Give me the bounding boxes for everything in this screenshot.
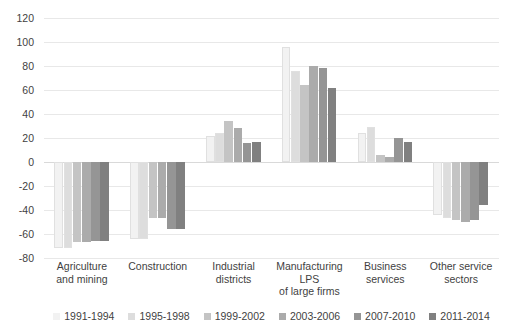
bar: [385, 157, 394, 162]
legend-item[interactable]: 1999-2002: [204, 311, 265, 322]
y-axis-tick-label: 40: [22, 109, 34, 120]
category-label-line: sectors: [423, 273, 499, 286]
bar: [158, 162, 167, 218]
bar: [328, 88, 337, 162]
bar-group: [44, 18, 120, 258]
category-label-line: and mining: [44, 273, 120, 286]
category-label-line: Business: [347, 260, 423, 273]
bar-group: [423, 18, 499, 258]
category-label: ManufacturingLPSof large firms: [272, 260, 348, 298]
legend-label: 1999-2002: [215, 311, 265, 322]
legend-swatch-icon: [279, 313, 286, 320]
category-label: Other servicesectors: [423, 260, 499, 285]
y-axis-tick-label: 0: [28, 157, 34, 168]
bar: [309, 66, 318, 162]
category-label-line: Construction: [120, 260, 196, 273]
category-label-line: Manufacturing: [272, 260, 348, 273]
bar: [479, 162, 488, 205]
bar: [394, 138, 403, 162]
bar: [243, 143, 252, 162]
bar-groups: [44, 18, 499, 258]
bar-chart: 120100806040200-20-40-60-80 Agriculturea…: [0, 0, 509, 330]
bar: [149, 162, 158, 218]
legend-label: 2011-2014: [440, 311, 489, 322]
legend-item[interactable]: 2007-2010: [354, 311, 415, 322]
bar: [100, 162, 109, 241]
legend-label: 1991-1994: [64, 311, 114, 322]
bar: [291, 71, 300, 162]
category-axis-labels: Agricultureand miningConstructionIndustr…: [44, 260, 499, 304]
legend-swatch-icon: [128, 313, 135, 320]
category-label-line: Agriculture: [44, 260, 120, 273]
category-label-line: LPS: [272, 273, 348, 286]
y-axis-tick-label: -80: [19, 253, 34, 264]
category-label-line: of large firms: [272, 285, 348, 298]
legend-label: 2003-2006: [290, 311, 340, 322]
legend-swatch-icon: [53, 313, 60, 320]
y-axis-tick-label: -60: [19, 229, 34, 240]
bar: [176, 162, 185, 229]
bar: [54, 162, 63, 248]
plot-area: [44, 18, 499, 258]
bar: [461, 162, 470, 222]
bar: [139, 162, 148, 239]
category-label: Construction: [120, 260, 196, 273]
bar-group: [120, 18, 196, 258]
category-label-line: services: [347, 273, 423, 286]
bar: [319, 68, 328, 162]
legend-item[interactable]: 2011-2014: [429, 311, 489, 322]
bar: [206, 136, 215, 162]
y-axis-tick-label: 80: [22, 61, 34, 72]
y-axis-tick-label: 120: [16, 13, 34, 24]
bar: [404, 142, 413, 162]
legend-swatch-icon: [204, 313, 211, 320]
bar-group: [347, 18, 423, 258]
bar: [452, 162, 461, 220]
category-label: Businessservices: [347, 260, 423, 285]
bar: [234, 128, 243, 162]
legend-label: 1995-1998: [139, 311, 189, 322]
bar-group: [196, 18, 272, 258]
y-axis-tick-label: -40: [19, 205, 34, 216]
bar: [167, 162, 176, 229]
category-label-line: districts: [196, 273, 272, 286]
y-axis-tick-label: -20: [19, 181, 34, 192]
category-label-line: Other service: [423, 260, 499, 273]
y-axis-tick-label: 20: [22, 133, 34, 144]
legend-item[interactable]: 2003-2006: [279, 311, 340, 322]
bar: [252, 142, 261, 162]
bar: [282, 47, 291, 162]
legend-item[interactable]: 1995-1998: [128, 311, 189, 322]
category-label: Industrialdistricts: [196, 260, 272, 285]
y-axis-tick-label: 60: [22, 85, 34, 96]
bar-group: [272, 18, 348, 258]
bar: [82, 162, 91, 242]
bar: [215, 133, 224, 162]
chart-legend: 1991-19941995-19981999-20022003-20062007…: [44, 308, 499, 324]
bar: [367, 127, 376, 162]
legend-swatch-icon: [429, 313, 436, 320]
legend-item[interactable]: 1991-1994: [53, 311, 114, 322]
bar: [300, 85, 309, 162]
category-label-line: Industrial: [196, 260, 272, 273]
legend-swatch-icon: [354, 313, 361, 320]
bar: [73, 162, 82, 242]
y-axis: 120100806040200-20-40-60-80: [0, 18, 40, 258]
gridline--80: [44, 258, 499, 259]
bar: [358, 133, 367, 162]
bar: [470, 162, 479, 220]
bar: [433, 162, 442, 215]
bar: [91, 162, 100, 241]
category-label: Agricultureand mining: [44, 260, 120, 285]
bar: [130, 162, 139, 239]
bar: [376, 155, 385, 162]
bar: [224, 121, 233, 162]
y-axis-tick-label: 100: [16, 37, 34, 48]
legend-label: 2007-2010: [365, 311, 415, 322]
bar: [443, 162, 452, 218]
bar: [64, 162, 73, 248]
